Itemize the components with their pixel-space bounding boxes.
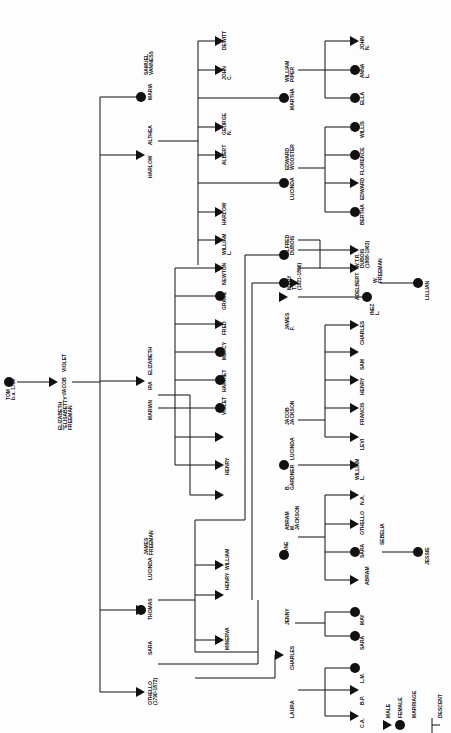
label-florence: FLORENCE	[360, 148, 365, 176]
label-lm: L.M.	[360, 673, 365, 683]
tree-lines	[0, 0, 451, 733]
label-adelbert: ADELBERT	[355, 273, 360, 300]
label-james-f: JAMES F.	[285, 313, 295, 330]
label-charles2: CHARLES	[290, 646, 295, 670]
label-lucinda1: LUCINDA	[148, 558, 153, 581]
henry3-node	[215, 590, 224, 600]
na-node	[350, 490, 359, 500]
label-william-piper: WILLIAM PIPER	[285, 61, 295, 82]
label-abram-m-jackson: ABRAM M. JACKSON	[285, 506, 300, 530]
label-violet2: VIOLET	[222, 397, 227, 415]
ira-node	[136, 376, 145, 386]
label-newton: NEWTON	[222, 263, 227, 285]
lillian-node	[413, 278, 423, 288]
label-tom: TOM b.a. 1730	[6, 379, 16, 400]
label-dewitt: DEWITT	[222, 31, 227, 50]
legend-descent-label: DESCENT	[438, 694, 443, 718]
henry2-node	[350, 375, 359, 385]
thomas-node	[136, 605, 145, 615]
label-william3: WILLIAM	[225, 549, 230, 570]
label-othello2: OTHELLO	[360, 511, 365, 535]
label-sara2: SARA	[360, 544, 365, 558]
label-na: N.A.	[360, 495, 365, 505]
label-lucinda3: LUCINDA	[290, 438, 295, 461]
label-minerva: MINERVA	[225, 627, 230, 650]
label-othello1: OTHELLO (1790-1872)	[148, 678, 158, 705]
label-william-l: WILLIAM L.	[222, 234, 232, 255]
othello1-node	[136, 687, 145, 697]
label-may: MAY	[360, 614, 365, 625]
william3-node	[215, 560, 224, 570]
label-james-freeman: JAMES FREEMAN	[144, 530, 154, 555]
label-george-n: GEORGE N.	[222, 113, 232, 135]
label-alfred-dubois: ALFRED DUBOIS	[285, 235, 295, 255]
label-jane: JANE	[284, 542, 289, 555]
genealogy-diagram: TOM b.a. 1730ELIZABETH "ELISABETTY" FREE…	[0, 0, 451, 733]
jacob-node	[49, 377, 58, 387]
martha-node	[279, 93, 289, 103]
label-maria: MARIA	[148, 84, 153, 100]
label-charles1: CHARLES	[360, 321, 365, 345]
label-jenny: JENNY	[285, 608, 290, 625]
charles2-node	[275, 650, 284, 660]
label-elizabeth: ELIZABETH "ELISABETTY" FREEMAN	[58, 394, 73, 430]
legend-female-icon	[395, 720, 405, 730]
label-ira: IRA	[148, 381, 153, 390]
lm-node	[350, 663, 360, 673]
label-marian: MARIAN	[148, 400, 153, 420]
maria-node	[136, 92, 146, 102]
minerva-node	[215, 635, 224, 645]
lucinda2-node	[279, 178, 289, 188]
label-lillian: LILLIAN	[425, 281, 430, 300]
label-john-c: JOHN C.	[222, 66, 232, 80]
harlow-node	[136, 150, 145, 160]
label-jessie: JESSIE	[425, 547, 430, 565]
legend-male-label: MALE	[386, 704, 391, 718]
label-samuel: SAMUEL VANNESS	[144, 51, 154, 75]
marian-child-node	[215, 490, 224, 500]
label-abram2: ABRAM	[365, 566, 370, 585]
label-lucinda2: LUCINDA	[290, 178, 295, 201]
label-henry2: HENRY	[360, 378, 365, 395]
label-ca: C.A.	[360, 718, 365, 728]
label-harlow2: HARLOW	[222, 203, 227, 226]
label-levi: LEVI	[360, 439, 365, 450]
jessie-node	[413, 547, 423, 557]
levi-node	[350, 432, 359, 442]
label-fred: FRED	[222, 321, 227, 335]
label-william-l2: WILLIAM L.	[355, 459, 365, 480]
label-sebelia: SEBELIA	[380, 523, 385, 545]
label-jacob: JACOB	[62, 377, 67, 395]
label-edward2: EDWARD	[360, 178, 365, 200]
label-violet1: VIOLET	[62, 354, 67, 372]
label-mercy: MERCY	[222, 342, 227, 360]
sam-node	[350, 347, 359, 357]
unnamed-m2-node	[215, 432, 224, 442]
label-b-gardner: B. GARDNER	[285, 465, 295, 490]
label-elizabeth2: ELIZABETH	[148, 347, 153, 375]
legend-female-label: FEMALE	[398, 697, 403, 718]
label-bertha: BERTHA	[360, 204, 365, 225]
label-edward-wooster: EDWARD WOOSTER	[285, 144, 295, 170]
bp-node	[350, 685, 359, 695]
ca-node	[350, 711, 359, 721]
label-w-freeman: W. FREEMAN	[373, 258, 383, 283]
label-jacob-jackson: JACOB JACKSON	[285, 401, 295, 425]
label-ella: ELLA	[360, 92, 365, 105]
label-sara1: SARA	[148, 641, 153, 655]
label-sara3: SARA	[360, 636, 365, 650]
francis-node	[350, 403, 359, 413]
label-bp: B.P.	[360, 696, 365, 705]
othello2-node	[350, 519, 359, 529]
label-inez-l: INEZ L.	[370, 304, 380, 315]
john-n-node	[350, 36, 359, 46]
label-harlow: HARLOW	[148, 156, 153, 179]
label-john-n: JOHN N.	[360, 36, 370, 50]
label-laura: LAURA	[290, 701, 295, 719]
inez-node	[362, 292, 372, 302]
label-harriet: HARRIET	[222, 370, 227, 392]
charles1-node	[350, 320, 359, 330]
legend-male-icon	[383, 720, 392, 730]
label-thomas: THOMAS	[148, 598, 153, 620]
label-henry1: HENRY	[225, 458, 230, 475]
